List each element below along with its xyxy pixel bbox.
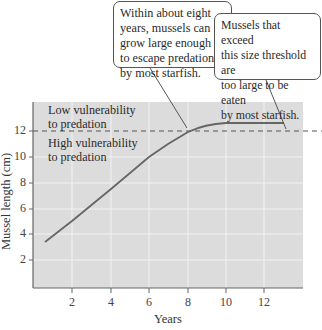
x-tick-label: 2 [62, 295, 82, 310]
x-tick-label: 6 [139, 295, 159, 310]
x-tick-label: 4 [101, 295, 121, 310]
right-callout: Mussels that exceed this size threshold … [214, 13, 321, 80]
region-label-line: Low vulnerability [48, 103, 136, 117]
callout-line: by most starfish. [120, 66, 225, 81]
y-tick-label: 12 [10, 123, 26, 138]
callout-line: this size threshold are [221, 48, 314, 78]
callout-line: Within about eight [120, 6, 225, 21]
x-tick-marks [72, 288, 264, 293]
region-label-line: to predation [48, 150, 138, 164]
callout-line: by most starfish. [221, 108, 314, 123]
x-tick-label: 12 [254, 295, 274, 310]
callout-line: years, mussels can [120, 21, 225, 36]
x-tick-label: 10 [216, 295, 236, 310]
callout-line: grow large enough [120, 36, 225, 51]
y-tick-label: 2 [10, 252, 26, 267]
region-label-line: to predation [48, 117, 136, 131]
y-axis-label: Mussel length (cm) [0, 153, 14, 250]
x-tick-label: 8 [178, 295, 198, 310]
callout-line: to escape predation [120, 51, 225, 66]
callout-line: Mussels that exceed [221, 18, 314, 48]
low-vulnerability-label: Low vulnerability to predation [48, 103, 136, 131]
high-vulnerability-label: High vulnerability to predation [48, 136, 138, 164]
region-label-line: High vulnerability [48, 136, 138, 150]
callout-line: too large to be eaten [221, 78, 314, 108]
x-axis-label: Years [154, 312, 182, 327]
